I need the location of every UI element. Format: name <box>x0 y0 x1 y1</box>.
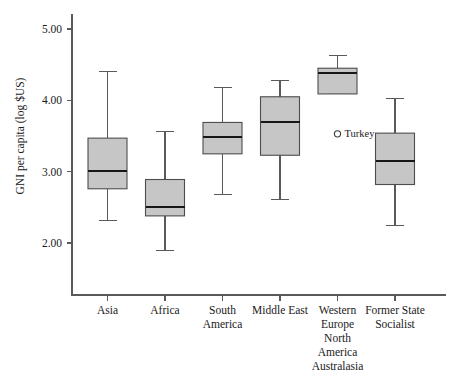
x-axis-ticks <box>108 295 396 301</box>
x-category-label: America <box>203 318 243 330</box>
y-tick-label: 3.00 <box>42 166 62 178</box>
box-body <box>146 180 185 216</box>
y-axis-title: GNI per capita (log $US) <box>14 77 27 194</box>
y-axis-ticks: 2.003.004.005.00 <box>42 23 73 249</box>
x-category-label: Europe <box>321 318 354 331</box>
box-body <box>376 133 415 184</box>
y-axis-label: GNI per capita (log $US) <box>14 77 27 194</box>
box-plot-4 <box>261 80 300 199</box>
x-axis-category-labels: AsiaAfricaSouthAmericaMiddle EastWestern… <box>97 304 425 372</box>
box-plot-6 <box>376 99 415 225</box>
x-category-label: North <box>324 332 351 344</box>
outlier-label: Turkey <box>345 128 376 139</box>
box-body <box>88 138 127 189</box>
x-category-label: Australasia <box>312 360 364 372</box>
outlier-point <box>334 131 340 137</box>
box-plot-1 <box>88 72 127 221</box>
x-category-label: Former State <box>365 304 425 316</box>
outlier-series: Turkey <box>334 128 375 139</box>
x-category-label: Socialist <box>375 318 415 330</box>
x-category-label: Middle East <box>252 304 309 316</box>
y-tick-label: 5.00 <box>42 23 62 35</box>
x-category-label: Western <box>319 304 357 316</box>
box-plot-3 <box>203 87 242 194</box>
box-series <box>88 55 415 250</box>
box-plot-chart: 2.003.004.005.00 GNI per capita (log $US… <box>0 0 452 381</box>
plot-area: 2.003.004.005.00 GNI per capita (log $US… <box>0 0 452 381</box>
y-tick-label: 4.00 <box>42 94 62 106</box>
y-tick-label: 2.00 <box>42 237 62 249</box>
box-body <box>203 122 242 153</box>
box-plot-2 <box>146 132 185 250</box>
box-plot-5 <box>318 55 357 94</box>
x-category-label: Africa <box>150 304 179 316</box>
x-category-label: Asia <box>97 304 118 316</box>
box-body <box>261 97 300 155</box>
x-category-label: America <box>318 346 358 358</box>
box-body <box>318 68 357 94</box>
x-category-label: South <box>209 304 236 316</box>
